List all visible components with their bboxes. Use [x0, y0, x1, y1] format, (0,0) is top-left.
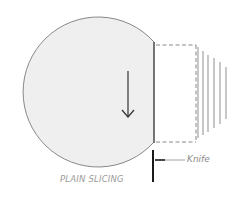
- plain-slicing-diagram: [0, 0, 242, 198]
- diagram-caption: PLAIN SLICING: [60, 175, 124, 184]
- food-round: [23, 17, 154, 167]
- knife-label: Knife: [187, 155, 210, 164]
- removed-slice-outline: [156, 45, 196, 142]
- slices: [198, 47, 226, 138]
